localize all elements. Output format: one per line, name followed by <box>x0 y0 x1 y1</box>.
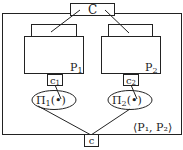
composition-label: ⟨P₁, P₂⟩ <box>133 121 172 134</box>
p2-header-box <box>109 25 153 37</box>
top-component-label: C <box>88 3 97 17</box>
protocol-pi2-label: Π2(•) <box>112 94 142 108</box>
process-p1: P1 <box>25 25 84 76</box>
process-p2: P2 <box>102 25 161 76</box>
protocol-pi1-label: Π1(•) <box>36 94 66 108</box>
link-pi1-c <box>38 106 91 135</box>
bottom-connector-label: c <box>89 135 95 146</box>
link-pi2-c <box>91 109 130 135</box>
p1-header-box <box>32 25 77 37</box>
composition-diagram: C P1 P2 c1 c2 Π1(•) Π2(•) ⟨P₁, P₂⟩ c <box>0 0 183 150</box>
